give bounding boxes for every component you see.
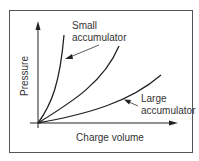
- y-axis-label: Pressure: [19, 56, 30, 96]
- large-label-line1: Large: [141, 93, 167, 104]
- large-label-line2: accumulator: [141, 105, 196, 116]
- accumulator-pressure-diagram: Small accumulator Large accumulator Char…: [0, 0, 199, 161]
- small-label-line2: accumulator: [72, 32, 127, 43]
- x-axis-label: Charge volume: [76, 132, 144, 143]
- small-label-line1: Small: [72, 20, 97, 31]
